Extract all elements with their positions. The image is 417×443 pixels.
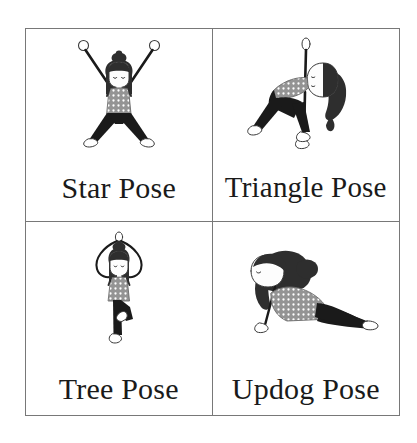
tree-pose-illustration bbox=[26, 222, 212, 362]
updog-pose-figure bbox=[231, 237, 381, 347]
pose-label-tree: Tree Pose bbox=[59, 374, 179, 404]
updog-pose-illustration bbox=[213, 222, 400, 362]
star-pose-figure bbox=[76, 38, 162, 158]
pose-card-star[interactable]: Star Pose bbox=[26, 29, 213, 222]
pose-label-updog: Updog Pose bbox=[232, 374, 380, 404]
tree-pose-figure bbox=[83, 231, 155, 353]
triangle-pose-illustration bbox=[213, 29, 400, 167]
pose-card-triangle[interactable]: Triangle Pose bbox=[213, 29, 400, 222]
triangle-pose-figure bbox=[246, 36, 366, 161]
pose-grid: Star Pose bbox=[25, 28, 400, 416]
pose-label-star: Star Pose bbox=[62, 173, 176, 203]
pose-label-triangle: Triangle Pose bbox=[225, 173, 387, 202]
yoga-poses-poster: Star Pose bbox=[0, 0, 417, 443]
pose-card-updog[interactable]: Updog Pose bbox=[213, 222, 400, 415]
star-pose-illustration bbox=[26, 29, 212, 167]
pose-card-tree[interactable]: Tree Pose bbox=[26, 222, 213, 415]
